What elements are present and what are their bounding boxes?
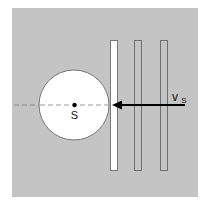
center-point <box>72 103 76 107</box>
center-label: S <box>71 109 78 121</box>
velocity-subscript: S <box>181 96 186 105</box>
sphere-bars-diagram: S v S <box>0 0 203 205</box>
velocity-symbol: v <box>172 90 178 104</box>
